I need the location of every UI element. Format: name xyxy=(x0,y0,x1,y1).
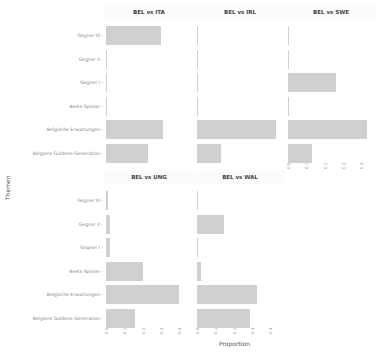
bar xyxy=(288,50,289,69)
bar xyxy=(106,215,110,234)
facet-panel: BEL vs ITA xyxy=(104,5,194,165)
bar xyxy=(106,120,163,139)
y-category-label: Gegner I - xyxy=(80,245,103,250)
facet-title: BEL vs WAL xyxy=(195,170,285,184)
bar xyxy=(288,144,312,163)
bar xyxy=(106,26,161,45)
y-category-label: Gegner III - xyxy=(77,33,103,38)
facet-panel: BEL vs IRL xyxy=(195,5,285,165)
y-category-label: Beste Spieler - xyxy=(69,269,103,274)
y-category-label: Belgiens Goldene Generation - xyxy=(33,316,103,321)
facet-title: BEL vs IRL xyxy=(195,5,285,19)
x-tick-label: 0.2 xyxy=(232,328,237,334)
facet-panel: BEL vs UNG0.00.10.20.30.4 xyxy=(104,170,194,330)
bar xyxy=(197,144,221,163)
bar xyxy=(197,285,257,304)
bar xyxy=(106,191,108,210)
facet-title: BEL vs ITA xyxy=(104,5,194,19)
x-tick-label: 0.0 xyxy=(104,328,109,334)
y-category-label: Belgiens Goldene Generation - xyxy=(33,151,103,156)
bar xyxy=(288,26,289,45)
bar xyxy=(197,262,201,281)
bar xyxy=(106,238,110,257)
bar xyxy=(197,50,198,69)
x-tick-label: 0.4 xyxy=(177,328,182,334)
facet-panel: BEL vs SWE0.00.10.20.30.4 xyxy=(286,5,376,165)
x-tick-label: 0.4 xyxy=(268,328,273,334)
y-category-label: Beste Spieler - xyxy=(69,104,103,109)
y-category-label: Gegner II - xyxy=(79,57,103,62)
bar xyxy=(197,191,198,210)
bar xyxy=(197,309,250,328)
x-tick-label: 0.3 xyxy=(341,163,346,169)
bar xyxy=(197,238,198,257)
bar xyxy=(106,262,143,281)
bar xyxy=(197,120,276,139)
x-tick-label: 0.4 xyxy=(359,163,364,169)
x-tick-label: 0.0 xyxy=(286,163,291,169)
bar xyxy=(197,215,224,234)
x-tick-label: 0.2 xyxy=(323,163,328,169)
bar xyxy=(288,73,336,92)
x-tick-label: 0.1 xyxy=(213,328,218,334)
bar xyxy=(197,73,198,92)
facet-title: BEL vs UNG xyxy=(104,170,194,184)
x-tick-label: 0.3 xyxy=(159,328,164,334)
facet-title: BEL vs SWE xyxy=(286,5,376,19)
bar xyxy=(106,285,179,304)
y-category-label: Belgische Erwartungen - xyxy=(47,292,103,297)
bar xyxy=(197,26,198,45)
x-tick-label: 0.1 xyxy=(304,163,309,169)
x-axis-title: Proportion xyxy=(219,340,250,347)
y-axis-title: Themen xyxy=(4,176,11,201)
y-category-label: Belgische Erwartungen - xyxy=(47,127,103,132)
bar xyxy=(106,309,135,328)
bar xyxy=(288,120,367,139)
x-tick-label: 0.2 xyxy=(141,328,146,334)
x-tick-label: 0.3 xyxy=(250,328,255,334)
bar xyxy=(106,73,107,92)
y-category-label: Gegner II - xyxy=(79,222,103,227)
x-tick-label: 0.1 xyxy=(122,328,127,334)
bar xyxy=(288,97,289,116)
bar xyxy=(197,97,198,116)
bar xyxy=(106,50,107,69)
y-category-label: Gegner III - xyxy=(77,198,103,203)
x-tick-label: 0.0 xyxy=(195,328,200,334)
bar xyxy=(106,97,107,116)
facet-panel: BEL vs WAL0.00.10.20.30.4 xyxy=(195,170,285,330)
bar xyxy=(106,144,148,163)
y-category-label: Gegner I - xyxy=(80,80,103,85)
